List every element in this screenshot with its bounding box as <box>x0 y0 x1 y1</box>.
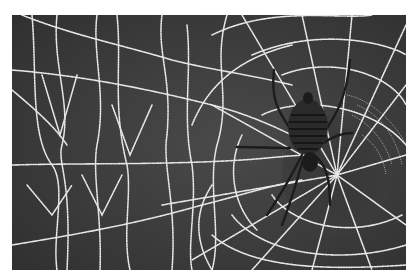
spider-web-photo: Orb-weaver spider on a dew-covered spide… <box>12 15 406 270</box>
